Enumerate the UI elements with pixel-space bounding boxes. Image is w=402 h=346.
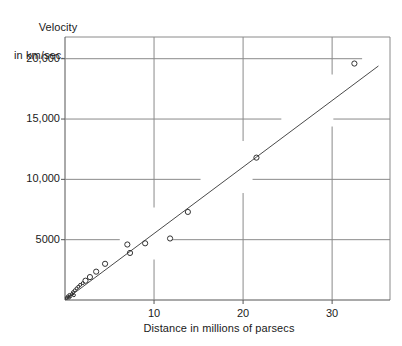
data-point xyxy=(167,236,172,241)
y-tick-label-15,000: 15,000 xyxy=(8,112,60,124)
data-point xyxy=(87,274,92,279)
data-point xyxy=(83,278,88,283)
regression-line xyxy=(65,66,378,300)
data-point xyxy=(102,261,107,266)
hubble-diagram-figure: Velocity in km/sec. Distance in millions… xyxy=(0,0,402,346)
x-tick-label-20: 20 xyxy=(223,307,263,319)
gridlines xyxy=(61,37,390,304)
data-point xyxy=(352,61,357,66)
x-tick-label-30: 30 xyxy=(312,307,352,319)
data-points xyxy=(65,61,357,300)
y-tick-label-5000: 5000 xyxy=(8,233,60,245)
data-point xyxy=(125,242,130,247)
data-point xyxy=(143,241,148,246)
plot-frame xyxy=(65,37,390,300)
plot-canvas xyxy=(0,0,402,346)
data-point xyxy=(94,269,99,274)
y-tick-label-20,000: 20,000 xyxy=(8,52,60,64)
data-point xyxy=(72,294,75,297)
y-tick-label-10,000: 10,000 xyxy=(8,172,60,184)
data-point xyxy=(185,209,190,214)
x-tick-label-10: 10 xyxy=(134,307,174,319)
